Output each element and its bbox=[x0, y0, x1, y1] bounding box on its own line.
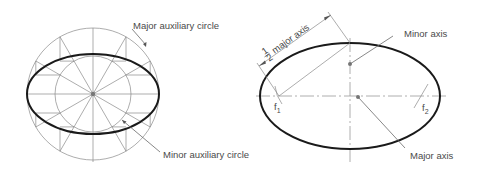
major-axis-leader bbox=[358, 97, 405, 148]
label-major-auxiliary-circle: Major auxiliary circle bbox=[133, 20, 219, 31]
minor-axis-leader bbox=[350, 36, 393, 64]
label-minor-auxiliary-circle: Minor auxiliary circle bbox=[163, 149, 249, 160]
label-major-axis: Major axis bbox=[410, 150, 454, 161]
half-major-dimension: 1 2 major axis bbox=[257, 12, 350, 96]
label-minor-axis: Minor axis bbox=[404, 28, 448, 39]
left-diagram: Major auxiliary circle Minor auxiliary c… bbox=[27, 20, 249, 162]
label-focus1: f1 bbox=[274, 101, 281, 114]
arrowhead-icon bbox=[259, 61, 266, 67]
arrowhead-icon bbox=[324, 15, 331, 21]
minor-circle-leader bbox=[122, 120, 160, 152]
ellipse-diagram: Major auxiliary circle Minor auxiliary c… bbox=[0, 0, 485, 175]
label-focus2: f2 bbox=[422, 102, 429, 115]
half-major-line bbox=[279, 43, 350, 96]
right-diagram: 1 2 major axis Minor axis Major axis f1 … bbox=[256, 12, 454, 162]
center-point bbox=[91, 92, 95, 96]
